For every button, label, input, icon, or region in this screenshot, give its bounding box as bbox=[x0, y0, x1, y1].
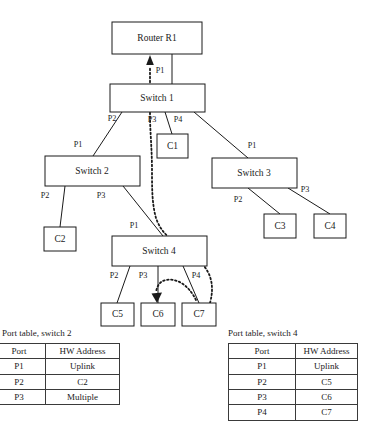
cell-hw-address: Uplink bbox=[296, 359, 358, 374]
port-label-switch4-p1: P1 bbox=[130, 221, 139, 230]
port-label-switch1-p1: P1 bbox=[156, 66, 165, 75]
port-table-switch4: Port HW Address P1 Uplink P2 C5 P3 C6 bbox=[228, 343, 358, 421]
cell-hw-address: Multiple bbox=[46, 390, 120, 405]
switch-2-label: Switch 2 bbox=[75, 166, 109, 176]
flow-arrowhead-c6 bbox=[152, 293, 163, 304]
port-label-switch4-p2: P2 bbox=[110, 271, 119, 280]
port-label-switch3-p3: P3 bbox=[301, 185, 310, 194]
cell-hw-address: Uplink bbox=[46, 359, 120, 374]
cell-hw-address: C2 bbox=[46, 374, 120, 389]
column-header-port: Port bbox=[0, 344, 46, 359]
port-table-switch4-caption: Port table, switch 4 bbox=[228, 328, 358, 338]
cell-port: P1 bbox=[229, 359, 296, 374]
host-c3-label: C3 bbox=[274, 221, 285, 231]
port-table-switch2-block: Port table, switch 2 Port HW Address P1 … bbox=[0, 328, 120, 405]
port-label-switch4-p4: P4 bbox=[192, 271, 201, 280]
cell-port: P2 bbox=[0, 374, 46, 389]
table-row: P3 Multiple bbox=[0, 390, 120, 405]
port-label-switch1-p4: P4 bbox=[174, 115, 183, 124]
port-table-switch4-block: Port table, switch 4 Port HW Address P1 … bbox=[228, 328, 358, 421]
column-header-hw-address: HW Address bbox=[296, 344, 358, 359]
node-host-c7[interactable]: C7 bbox=[182, 303, 216, 326]
switch-4-label: Switch 4 bbox=[142, 246, 176, 256]
link-switch4-c5 bbox=[117, 266, 130, 303]
table-row: P2 C2 bbox=[0, 374, 120, 389]
node-host-c5[interactable]: C5 bbox=[101, 303, 134, 326]
port-table-switch2: Port HW Address P1 Uplink P2 C2 P3 Multi… bbox=[0, 343, 120, 405]
link-switch1-c1 bbox=[165, 112, 172, 134]
host-c2-label: C2 bbox=[54, 234, 65, 244]
node-switch-1[interactable]: Switch 1 bbox=[110, 84, 205, 112]
node-host-c2[interactable]: C2 bbox=[44, 227, 76, 251]
host-c6-label: C6 bbox=[152, 309, 163, 319]
port-label-switch3-p1: P1 bbox=[248, 141, 257, 150]
router-r1-label: Router R1 bbox=[137, 33, 177, 43]
host-c7-label: C7 bbox=[193, 309, 204, 319]
port-label-switch1-p2: P2 bbox=[108, 114, 117, 123]
node-switch-2[interactable]: Switch 2 bbox=[45, 156, 140, 186]
port-label-switch4-p3: P3 bbox=[139, 271, 148, 280]
host-c4-label: C4 bbox=[324, 221, 335, 231]
node-host-c4[interactable]: C4 bbox=[314, 214, 346, 238]
cell-hw-address: C5 bbox=[296, 374, 358, 389]
table-row: P2 C5 bbox=[229, 374, 358, 389]
node-host-c1[interactable]: C1 bbox=[157, 134, 188, 158]
table-row: P1 Uplink bbox=[0, 359, 120, 374]
topology-diagram: Router R1 Switch 1 Switch 2 Switch 3 Swi… bbox=[0, 0, 365, 340]
host-c1-label: C1 bbox=[167, 141, 178, 151]
network-diagram-page: Router R1 Switch 1 Switch 2 Switch 3 Swi… bbox=[0, 0, 365, 436]
cell-hw-address: C6 bbox=[296, 390, 358, 405]
cell-port: P3 bbox=[229, 390, 296, 405]
port-label-switch2-p2: P2 bbox=[41, 191, 50, 200]
link-switch2-c2 bbox=[60, 186, 65, 227]
port-label-switch3-p2: P2 bbox=[234, 195, 243, 204]
link-switch3-c3 bbox=[248, 188, 280, 214]
port-table-switch2-caption: Port table, switch 2 bbox=[0, 328, 120, 338]
port-label-switch2-p1: P1 bbox=[74, 140, 83, 149]
node-switch-4[interactable]: Switch 4 bbox=[112, 236, 207, 266]
table-row: P4 C7 bbox=[229, 405, 358, 420]
cell-hw-address: C7 bbox=[296, 405, 358, 420]
node-host-c3[interactable]: C3 bbox=[264, 214, 296, 238]
port-label-switch2-p3: P3 bbox=[97, 191, 106, 200]
node-host-c6[interactable]: C6 bbox=[141, 303, 175, 326]
link-switch1-switch3 bbox=[194, 112, 248, 158]
host-c5-label: C5 bbox=[112, 309, 123, 319]
cell-port: P4 bbox=[229, 405, 296, 420]
node-switch-3[interactable]: Switch 3 bbox=[212, 158, 297, 188]
cell-port: P3 bbox=[0, 390, 46, 405]
switch-3-label: Switch 3 bbox=[237, 168, 271, 178]
column-header-port: Port bbox=[229, 344, 296, 359]
port-label-switch1-p3: P3 bbox=[148, 115, 157, 124]
cell-port: P1 bbox=[0, 359, 46, 374]
flow-arrowhead-router bbox=[146, 55, 154, 65]
table-row: P3 C6 bbox=[229, 390, 358, 405]
table-header-row: Port HW Address bbox=[229, 344, 358, 359]
cell-port: P2 bbox=[229, 374, 296, 389]
node-router-r1[interactable]: Router R1 bbox=[112, 22, 202, 54]
table-row: P1 Uplink bbox=[229, 359, 358, 374]
column-header-hw-address: HW Address bbox=[46, 344, 120, 359]
table-header-row: Port HW Address bbox=[0, 344, 120, 359]
switch-1-label: Switch 1 bbox=[140, 93, 174, 103]
